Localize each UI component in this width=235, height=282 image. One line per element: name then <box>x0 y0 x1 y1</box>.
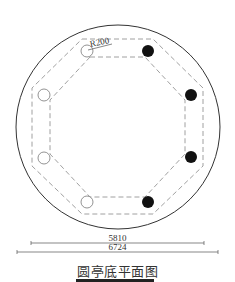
column-right-upper <box>185 89 197 101</box>
dimension-outer-label: 6724 <box>0 242 235 252</box>
octagon-outer-dashed <box>32 39 203 214</box>
column-bottom-left <box>81 196 93 208</box>
column-top-right <box>142 45 154 57</box>
column-right-lower <box>185 151 197 163</box>
column-left-lower <box>38 152 50 164</box>
octagon-inner-dashed <box>50 57 185 197</box>
column-bottom-right <box>142 196 154 208</box>
drawing-title: 圆亭底平面图 <box>0 261 235 280</box>
outer-circle <box>16 25 220 229</box>
columns <box>38 45 197 208</box>
column-left-upper <box>38 89 50 101</box>
